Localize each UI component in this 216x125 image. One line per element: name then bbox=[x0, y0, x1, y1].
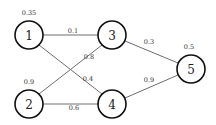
edge-weight-2-3: 0.8 bbox=[84, 53, 94, 61]
node-3-label: 3 bbox=[108, 29, 116, 43]
node-5-label: 5 bbox=[187, 63, 195, 77]
node-1-value: 0.35 bbox=[22, 9, 36, 17]
node-1-label: 1 bbox=[25, 29, 33, 43]
node-1: 1 0.35 bbox=[15, 9, 43, 49]
node-2: 2 0.9 bbox=[15, 78, 43, 118]
node-3: 3 bbox=[98, 21, 126, 49]
node-5: 5 0.5 bbox=[177, 43, 205, 83]
node-4-label: 4 bbox=[108, 98, 116, 112]
node-2-value: 0.9 bbox=[24, 78, 34, 86]
edge-weight-1-4: 0.4 bbox=[83, 75, 93, 83]
node-2-label: 2 bbox=[25, 98, 33, 112]
edge-weight-2-4: 0.6 bbox=[69, 104, 79, 112]
edge-weight-4-5: 0.9 bbox=[144, 76, 154, 84]
edge-weight-1-3: 0.1 bbox=[68, 27, 78, 35]
node-4: 4 bbox=[98, 90, 126, 118]
node-5-value: 0.5 bbox=[184, 43, 194, 51]
graph-diagram: 0.1 0.4 0.8 0.6 0.3 0.9 1 0.35 2 0.9 3 4… bbox=[0, 0, 216, 125]
edge-weight-3-5: 0.3 bbox=[144, 38, 154, 46]
